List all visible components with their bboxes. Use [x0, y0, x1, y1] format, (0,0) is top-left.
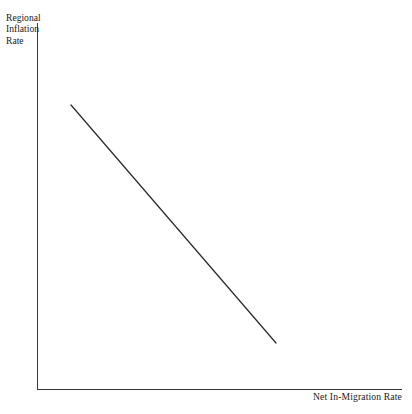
y-axis-title-line-1: Regional	[6, 12, 68, 23]
y-axis-title-line-3: Rate	[6, 35, 68, 46]
chart-canvas	[0, 0, 412, 414]
y-axis-title-line-2: Inflation	[6, 23, 68, 34]
plot-area	[0, 0, 412, 414]
x-axis-title: Net In-Migration Rate	[313, 391, 402, 402]
chart-figure: Regional Inflation Rate Net In-Migration…	[0, 0, 412, 414]
data-series-line	[71, 105, 276, 343]
y-axis-title: Regional Inflation Rate	[6, 12, 68, 46]
